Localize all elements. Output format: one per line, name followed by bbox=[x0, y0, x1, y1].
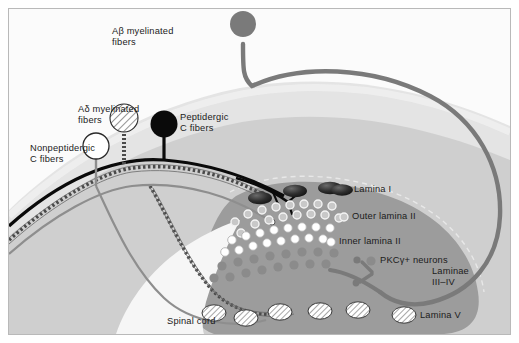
label-laminae-line1: Laminae bbox=[432, 266, 469, 276]
outer-lamina-2-cell bbox=[265, 216, 273, 224]
legend-marker-pkc-gamma bbox=[366, 256, 375, 265]
label-nonpeptidergic-line2: C fibers bbox=[30, 154, 64, 164]
outer-lamina-2-cell bbox=[251, 220, 259, 228]
label-adelta-line2: fibers bbox=[78, 115, 102, 125]
label-nonpeptidergic-c-fibers: NonpeptidergicC fibers bbox=[30, 143, 95, 166]
outer-lamina-2-cell bbox=[286, 201, 294, 209]
legend-marker-outer-lamina-2 bbox=[340, 213, 348, 221]
legend-marker-lamina-1 bbox=[331, 184, 353, 196]
outer-lamina-2-cell bbox=[321, 211, 329, 219]
lamina-5-cell bbox=[234, 310, 258, 326]
inner-lamina-2-cell bbox=[221, 248, 230, 257]
pkc-gamma-neuron bbox=[321, 259, 330, 268]
label-spinal-cord: Spinal cord bbox=[167, 316, 216, 327]
pkc-gamma-neuron bbox=[265, 251, 274, 260]
lamina-5-cell bbox=[346, 302, 370, 318]
peptidergic-cell-body bbox=[151, 111, 178, 138]
label-adelta-line1: Aδ myelinated bbox=[78, 104, 139, 114]
label-peptidergic-line2: C fibers bbox=[180, 123, 214, 133]
label-abeta-line1: Aβ myelinated bbox=[112, 26, 174, 36]
outer-lamina-2-cell bbox=[272, 203, 280, 211]
figure-root: Aβ myelinatedfibers Aδ myelinatedfibers … bbox=[0, 0, 519, 343]
inner-lamina-2-cell bbox=[312, 223, 321, 232]
label-peptidergic-line1: Peptidergic bbox=[180, 112, 229, 122]
pkc-gamma-neuron bbox=[233, 257, 242, 266]
legend-marker-inner-lamina-2 bbox=[327, 238, 336, 247]
inner-lamina-2-cell bbox=[270, 226, 279, 235]
abeta-cell-body bbox=[230, 11, 256, 37]
lamina-1-cell bbox=[248, 192, 272, 204]
inner-lamina-2-cell bbox=[305, 234, 314, 243]
inner-lamina-2-cell bbox=[249, 242, 258, 251]
inner-lamina-2-cell bbox=[263, 239, 272, 248]
outer-lamina-2-cell bbox=[279, 213, 287, 221]
legend-marker-lamina-5 bbox=[392, 307, 416, 323]
inner-lamina-2-cell bbox=[242, 232, 251, 241]
inner-lamina-2-cell bbox=[291, 235, 300, 244]
outer-lamina-2-cell bbox=[314, 200, 322, 208]
outer-lamina-2-cell bbox=[293, 211, 301, 219]
label-lamina-1: Lamina I bbox=[354, 184, 391, 195]
label-adelta-fibers: Aδ myelinatedfibers bbox=[78, 104, 139, 127]
pkc-gamma-neuron bbox=[329, 248, 338, 257]
pkc-gamma-neuron bbox=[241, 268, 250, 277]
pkc-gamma-neuron bbox=[289, 260, 298, 269]
pkc-gamma-neuron bbox=[257, 265, 266, 274]
pkc-gamma-neuron bbox=[313, 247, 322, 256]
label-laminae-3-4: LaminaeIII–IV bbox=[432, 266, 469, 289]
inner-lamina-2-cell bbox=[235, 246, 244, 255]
inner-lamina-2-cell bbox=[284, 224, 293, 233]
pkc-gamma-neuron bbox=[305, 259, 314, 268]
outer-lamina-2-cell bbox=[258, 206, 266, 214]
label-peptidergic-c-fibers: PeptidergicC fibers bbox=[180, 112, 229, 135]
pkc-gamma-neuron bbox=[217, 261, 226, 270]
pkc-gamma-neuron bbox=[273, 262, 282, 271]
abeta-terminal-bouton bbox=[353, 256, 360, 263]
lamina-5-cell bbox=[268, 304, 292, 320]
pkc-gamma-neuron bbox=[249, 254, 258, 263]
pkc-gamma-neuron bbox=[209, 273, 218, 282]
outer-lamina-2-cell bbox=[231, 218, 239, 226]
inner-lamina-2-cell bbox=[326, 224, 335, 233]
pkc-gamma-neuron bbox=[225, 272, 234, 281]
pkc-gamma-neuron bbox=[297, 247, 306, 256]
outer-lamina-2-cell bbox=[300, 200, 308, 208]
label-lamina-5: Lamina V bbox=[420, 310, 461, 321]
outer-lamina-2-cell bbox=[244, 210, 252, 218]
pkc-gamma-neuron bbox=[281, 249, 290, 258]
inner-lamina-2-cell bbox=[298, 223, 307, 232]
inner-lamina-2-cell bbox=[256, 229, 265, 238]
label-laminae-line2: III–IV bbox=[432, 277, 455, 287]
label-inner-lamina-2: Inner lamina II bbox=[339, 236, 401, 247]
lamina-5-cell bbox=[308, 303, 332, 319]
inner-lamina-2-cell bbox=[319, 235, 328, 244]
label-outer-lamina-2: Outer lamina II bbox=[352, 211, 416, 222]
label-abeta-fibers: Aβ myelinatedfibers bbox=[112, 26, 174, 49]
outer-lamina-2-cell bbox=[307, 210, 315, 218]
dorsal-horn-diagram bbox=[0, 0, 519, 343]
lamina-1-cell bbox=[283, 185, 307, 197]
label-abeta-line2: fibers bbox=[112, 37, 136, 47]
outer-lamina-2-cell bbox=[328, 202, 336, 210]
label-nonpeptidergic-line1: Nonpeptidergic bbox=[30, 143, 95, 153]
label-pkc-gamma-neurons: PKCγ+ neurons bbox=[380, 255, 448, 266]
inner-lamina-2-cell bbox=[277, 237, 286, 246]
inner-lamina-2-cell bbox=[228, 236, 237, 245]
abeta-terminal-bouton-2 bbox=[353, 280, 360, 287]
